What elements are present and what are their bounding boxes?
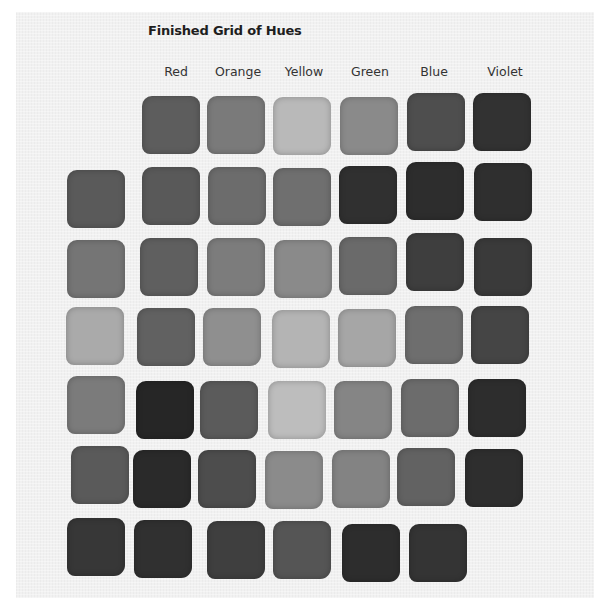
swatch-r5-violet [465, 449, 523, 507]
swatch-r5-green [332, 450, 390, 508]
swatch-r3-red [137, 308, 195, 366]
swatch-r4-green [334, 381, 392, 439]
swatch-r5-orange [198, 450, 256, 508]
swatch-r5-blue [397, 448, 455, 506]
swatch-r4-base [67, 376, 125, 434]
column-label-yellow: Yellow [269, 64, 339, 79]
swatch-r3-violet [471, 306, 529, 364]
swatch-r1-yellow [273, 168, 331, 226]
swatch-r2-base [67, 240, 125, 298]
swatch-r5-base [71, 446, 129, 504]
swatch-r0-green [340, 97, 398, 155]
swatch-r4-red [136, 381, 194, 439]
swatch-r5-red [133, 450, 191, 508]
swatch-r4-blue [401, 379, 459, 437]
swatch-r6-red [134, 520, 192, 578]
swatch-r4-orange [200, 381, 258, 439]
swatch-r0-blue [407, 93, 465, 151]
page-title: Finished Grid of Hues [148, 23, 302, 38]
swatch-r2-blue [406, 233, 464, 291]
swatch-r2-yellow [274, 240, 332, 298]
swatch-r3-orange [203, 308, 261, 366]
swatch-r3-blue [405, 306, 463, 364]
swatch-r1-violet [474, 163, 532, 221]
swatch-r6-yellow [273, 521, 331, 579]
swatch-r4-violet [468, 379, 526, 437]
swatch-r2-green [339, 237, 397, 295]
swatch-r1-green [339, 166, 397, 224]
swatch-r1-blue [406, 162, 464, 220]
column-label-green: Green [335, 64, 405, 79]
swatch-r0-yellow [273, 97, 331, 155]
swatch-r1-base [67, 170, 125, 228]
swatch-r3-yellow [272, 310, 330, 368]
swatch-r2-violet [474, 238, 532, 296]
swatch-r4-yellow [268, 381, 326, 439]
swatch-r1-orange [208, 167, 266, 225]
swatch-r0-violet [473, 93, 531, 151]
swatch-r1-red [142, 167, 200, 225]
column-label-violet: Violet [470, 64, 540, 79]
swatch-r2-red [140, 238, 198, 296]
swatch-r3-base [66, 307, 124, 365]
swatch-r6-blue [409, 524, 467, 582]
swatch-r5-yellow [265, 451, 323, 509]
column-label-blue: Blue [399, 64, 469, 79]
swatch-r6-orange [207, 521, 265, 579]
column-label-red: Red [141, 64, 211, 79]
swatch-r0-orange [207, 96, 265, 154]
column-label-orange: Orange [203, 64, 273, 79]
swatch-r6-green [342, 524, 400, 582]
swatch-r0-red [142, 96, 200, 154]
swatch-r6-base [67, 518, 125, 576]
swatch-r3-green [338, 309, 396, 367]
swatch-r2-orange [207, 238, 265, 296]
